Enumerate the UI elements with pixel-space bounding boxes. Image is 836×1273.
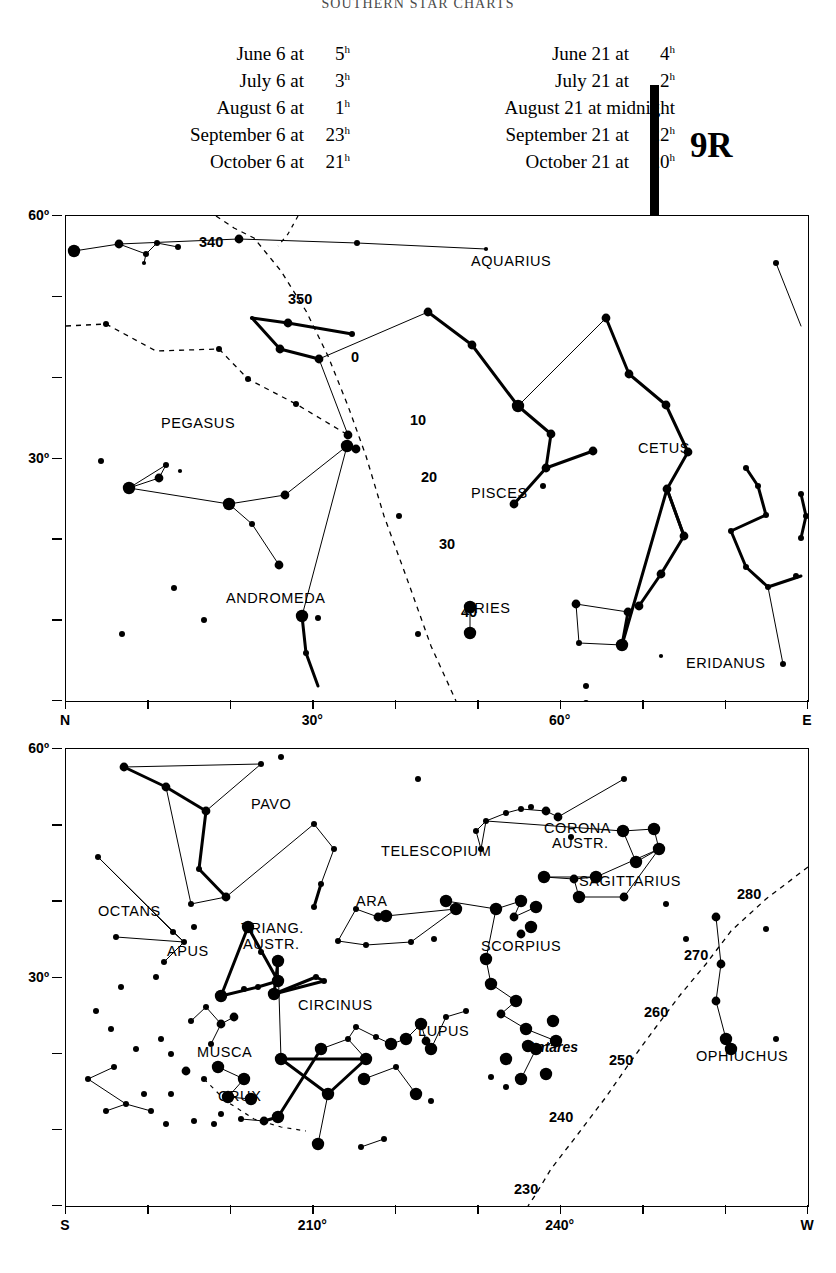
constellation-line [486,813,506,821]
constellation-line [314,884,321,907]
constellation-lines [66,216,808,701]
date-column-left: June 6 at5hJuly 6 at3hAugust 6 at1hSepte… [110,40,350,175]
star-marker [617,825,629,837]
star-marker [589,447,598,456]
constellation-label: TRIANG. [241,921,304,936]
star-marker [178,469,182,473]
constellation-label: APUS [167,944,209,959]
star-marker [281,491,290,500]
star-marker [624,608,633,617]
constellation-lines [66,749,808,1206]
x-tick-label: E [802,712,811,728]
star-marker [143,251,149,257]
constellation-line [428,312,472,345]
star-marker [141,1091,147,1097]
star-marker [463,1008,469,1014]
x-tick [230,1205,231,1214]
star-marker [272,955,284,967]
star-marker [490,903,502,915]
star-marker [258,761,264,767]
constellation-line [124,764,261,767]
star-marker [443,1014,449,1020]
star-marker [182,1067,191,1076]
star-marker [352,445,361,454]
star-marker [85,1076,91,1082]
star-marker [345,1036,351,1042]
constellation-line [731,531,746,567]
constellation-line [731,515,766,531]
x-tick [560,700,561,709]
star-marker [620,893,629,902]
star-marker [201,1076,207,1082]
star-marker [480,953,492,965]
star-marker [161,959,167,965]
y-tick [52,1053,62,1054]
ecliptic-degree-label: 230 [514,1181,538,1197]
constellation-label: CETUS [638,441,690,456]
constellation-line [226,824,314,897]
x-tick [230,700,231,709]
star-marker [773,1036,779,1042]
star-marker [196,866,202,872]
star-marker [663,901,669,907]
star-marker [358,1073,370,1085]
y-tick [52,377,62,378]
constellation-label: LUPUS [418,1024,469,1039]
star-marker [98,458,104,464]
date-text: August 21 at midnight [400,94,675,121]
constellation-line [157,243,178,247]
star-marker [408,939,414,945]
star-marker [415,631,421,637]
constellation-line [98,857,184,942]
constellation-line [166,787,206,811]
running-head: SOUTHERN STAR CHARTS [0,0,836,12]
star-marker [68,245,80,257]
star-marker [153,974,159,980]
star-marker [743,465,749,471]
star-marker [400,1033,412,1045]
x-tick [477,700,478,709]
star-marker [315,615,321,621]
constellation-line [746,468,758,486]
star-marker [630,856,642,868]
date-row: September 21 at22h [400,121,675,148]
x-tick [807,1205,808,1214]
star-marker [155,474,164,483]
star-marker [162,783,171,792]
y-tick [52,619,62,620]
x-tick-label: 60° [549,712,570,728]
constellation-line [280,349,319,359]
star-marker [393,1064,399,1070]
x-tick-label: S [60,1217,69,1233]
star-marker [321,978,327,984]
sky-north: AQUARIUSPEGASUSCETUSPISCESANDROMEDAARIES… [66,216,808,701]
x-tick [477,1205,478,1214]
star-marker [111,1064,117,1070]
star-marker [765,584,771,590]
ecliptic-degree-label: 0 [351,349,359,365]
star-marker [171,585,177,591]
star-marker [230,1013,239,1022]
star-marker [118,984,124,990]
star-marker [142,261,146,265]
date-time: 4h [629,40,675,67]
constellation-line [558,779,624,817]
constellation-label: PAVO [251,797,291,812]
chart-divider-bar [650,85,659,225]
x-tick [807,700,808,709]
star-marker [625,370,634,379]
star-marker [616,639,628,651]
star-marker [215,990,227,1002]
star-marker [415,776,421,782]
star-marker [268,988,280,1000]
constellation-line [314,824,334,849]
star-marker [272,1111,284,1123]
star-marker [538,871,550,883]
date-text: October 6 at [210,148,304,175]
date-text: June 6 at [236,40,304,67]
star-marker [540,1068,552,1080]
constellation-line [801,516,806,538]
star-marker [241,986,247,992]
ecliptic-degree-label: 260 [644,1004,668,1020]
star-marker [500,1053,512,1065]
